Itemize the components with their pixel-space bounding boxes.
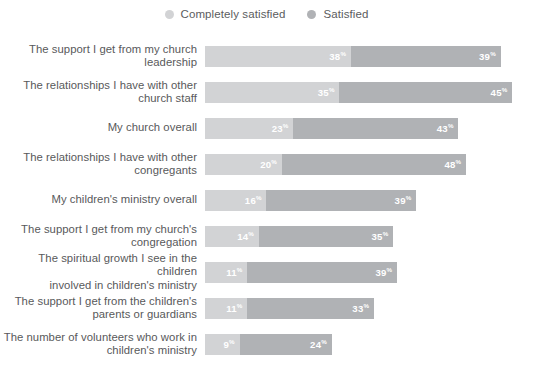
bar-segment-satisfied[interactable]: 39% xyxy=(351,46,501,67)
chart-rows: The support I get from my church leaders… xyxy=(0,38,533,362)
bar-segment-completely-satisfied[interactable]: 23% xyxy=(205,118,293,139)
bar-segment-number: 33 xyxy=(352,303,363,314)
chart-row: The number of volunteers who work in chi… xyxy=(0,326,533,362)
legend-circle-swatch-1 xyxy=(307,10,316,19)
stacked-bar[interactable]: 14%35% xyxy=(205,226,393,247)
chart-row: The support I get from my church's congr… xyxy=(0,218,533,254)
row-category-label: My children's ministry overall xyxy=(0,193,205,207)
bar-segment-completely-satisfied[interactable]: 20% xyxy=(205,154,282,175)
bar-segment-satisfied[interactable]: 33% xyxy=(247,298,374,319)
bar-segment-number: 14 xyxy=(237,231,248,242)
row-bar-area: 14%35% xyxy=(205,218,533,254)
row-bar-area: 11%33% xyxy=(205,290,533,326)
row-category-label: The relationships I have with other chur… xyxy=(0,79,205,106)
bar-segment-completely-satisfied[interactable]: 16% xyxy=(205,190,266,211)
bar-segment-value: 48% xyxy=(445,158,462,170)
bar-segment-value: 16% xyxy=(245,194,262,206)
bar-segment-completely-satisfied[interactable]: 9% xyxy=(205,334,240,355)
bar-segment-completely-satisfied[interactable]: 14% xyxy=(205,226,259,247)
bar-segment-value: 33% xyxy=(352,302,369,314)
row-bar-area: 16%39% xyxy=(205,182,533,218)
bar-segment-number: 16 xyxy=(245,195,256,206)
bar-segment-number: 35 xyxy=(318,87,329,98)
bar-segment-number: 38 xyxy=(329,51,340,62)
bar-segment-value: 39% xyxy=(375,266,392,278)
percent-sign: % xyxy=(283,122,289,129)
bar-segment-value: 23% xyxy=(272,122,289,134)
row-bar-area: 20%48% xyxy=(205,146,533,182)
row-bar-area: 35%45% xyxy=(205,74,533,110)
bar-segment-number: 20 xyxy=(260,159,271,170)
percent-sign: % xyxy=(386,266,392,273)
bar-segment-satisfied[interactable]: 48% xyxy=(282,154,466,175)
chart-row: The spiritual growth I see in the childr… xyxy=(0,254,533,290)
percent-sign: % xyxy=(237,302,243,309)
bar-segment-value: 45% xyxy=(491,86,508,98)
row-category-label: The support I get from my church leaders… xyxy=(0,43,205,70)
bar-segment-value: 9% xyxy=(223,338,234,350)
bar-segment-number: 35 xyxy=(372,231,383,242)
bar-segment-satisfied[interactable]: 24% xyxy=(240,334,332,355)
percent-sign: % xyxy=(490,50,496,57)
bar-segment-value: 20% xyxy=(260,158,277,170)
row-category-label: The support I get from the children's pa… xyxy=(0,295,205,322)
bar-segment-satisfied[interactable]: 39% xyxy=(247,262,397,283)
bar-segment-satisfied[interactable]: 39% xyxy=(266,190,416,211)
bar-segment-completely-satisfied[interactable]: 35% xyxy=(205,82,339,103)
legend-item-0[interactable]: Completely satisfied xyxy=(165,8,286,20)
percent-sign: % xyxy=(248,230,254,237)
chart-row: The relationships I have with other chur… xyxy=(0,74,533,110)
bar-segment-satisfied[interactable]: 35% xyxy=(259,226,393,247)
bar-segment-number: 39 xyxy=(479,51,490,62)
bar-segment-number: 23 xyxy=(272,123,283,134)
row-category-label: The spiritual growth I see in the childr… xyxy=(0,252,205,293)
bar-segment-value: 11% xyxy=(226,302,242,314)
bar-segment-value: 35% xyxy=(372,230,389,242)
bar-segment-value: 14% xyxy=(237,230,254,242)
row-bar-area: 11%39% xyxy=(205,254,533,290)
percent-sign: % xyxy=(383,230,389,237)
bar-segment-value: 11% xyxy=(226,266,242,278)
legend-circle-swatch-0 xyxy=(165,10,174,19)
stacked-bar-chart: Completely satisfiedSatisfied The suppor… xyxy=(0,0,533,391)
bar-segment-value: 39% xyxy=(395,194,412,206)
legend-label-1: Satisfied xyxy=(323,8,368,20)
chart-row: The support I get from my church leaders… xyxy=(0,38,533,74)
bar-segment-value: 35% xyxy=(318,86,335,98)
bar-segment-value: 39% xyxy=(479,50,496,62)
stacked-bar[interactable]: 23%43% xyxy=(205,118,458,139)
bar-segment-satisfied[interactable]: 45% xyxy=(339,82,512,103)
row-category-label: The support I get from my church's congr… xyxy=(0,223,205,250)
row-bar-area: 23%43% xyxy=(205,110,533,146)
stacked-bar[interactable]: 9%24% xyxy=(205,334,332,355)
bar-segment-number: 24 xyxy=(310,339,321,350)
percent-sign: % xyxy=(502,86,508,93)
percent-sign: % xyxy=(256,194,262,201)
stacked-bar[interactable]: 16%39% xyxy=(205,190,416,211)
bar-segment-completely-satisfied[interactable]: 38% xyxy=(205,46,351,67)
chart-row: My church overall23%43% xyxy=(0,110,533,146)
bar-segment-number: 11 xyxy=(226,267,237,278)
chart-row: The relationships I have with other cong… xyxy=(0,146,533,182)
bar-segment-number: 48 xyxy=(445,159,456,170)
bar-segment-completely-satisfied[interactable]: 11% xyxy=(205,262,247,283)
chart-row: The support I get from the children's pa… xyxy=(0,290,533,326)
percent-sign: % xyxy=(363,302,369,309)
percent-sign: % xyxy=(448,122,454,129)
stacked-bar[interactable]: 38%39% xyxy=(205,46,501,67)
percent-sign: % xyxy=(237,266,243,273)
bar-segment-value: 38% xyxy=(329,50,346,62)
bar-segment-value: 43% xyxy=(437,122,454,134)
row-category-label: My church overall xyxy=(0,121,205,135)
bar-segment-number: 39 xyxy=(395,195,406,206)
legend-item-1[interactable]: Satisfied xyxy=(307,8,368,20)
stacked-bar[interactable]: 11%39% xyxy=(205,262,397,283)
bar-segment-satisfied[interactable]: 43% xyxy=(293,118,458,139)
percent-sign: % xyxy=(456,158,462,165)
stacked-bar[interactable]: 35%45% xyxy=(205,82,512,103)
bar-segment-number: 43 xyxy=(437,123,448,134)
stacked-bar[interactable]: 20%48% xyxy=(205,154,466,175)
stacked-bar[interactable]: 11%33% xyxy=(205,298,374,319)
chart-row: My children's ministry overall16%39% xyxy=(0,182,533,218)
bar-segment-completely-satisfied[interactable]: 11% xyxy=(205,298,247,319)
